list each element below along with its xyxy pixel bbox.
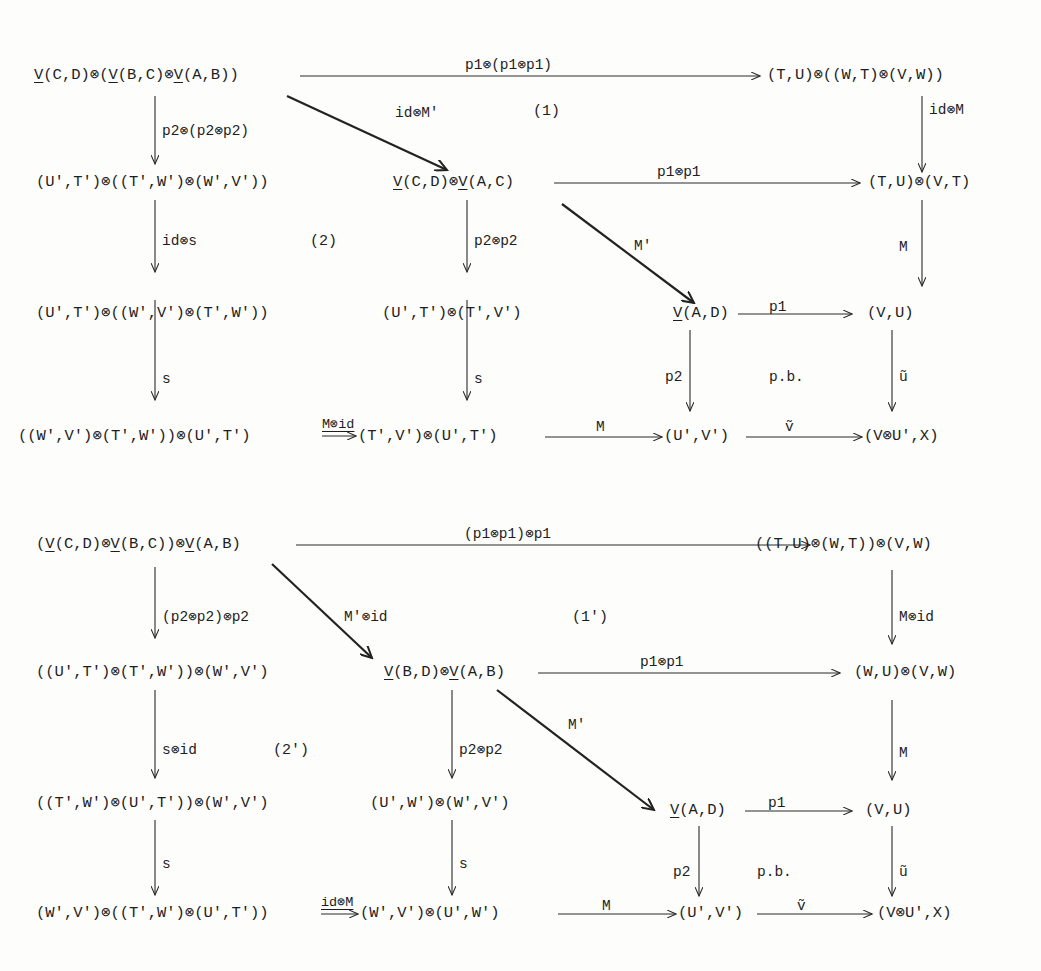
label-pb-h-2: p1 [768, 796, 785, 811]
region-label-1-prime: (1') [572, 610, 608, 625]
label-bot-h1: M⊗id [322, 418, 354, 432]
enriched-hom-v: V [393, 173, 402, 191]
node-bottom-r2c4: (W,U)⊗(V,W) [854, 665, 956, 681]
enriched-hom-v: V [185, 535, 194, 553]
label-pb-v: p2 [665, 370, 682, 385]
text: (A,D) [682, 304, 729, 322]
region-label-1: (1) [533, 104, 560, 119]
text: (A,C) [467, 173, 514, 191]
text: (B,D)⊗ [393, 663, 449, 681]
diagram-canvas: V(C,D)⊗(V(B,C)⊗V(A,B)) (T,U)⊗((W,T)⊗(V,W… [0, 0, 1041, 971]
label-top-h: p1⊗(p1⊗p1) [465, 58, 552, 73]
label-mid-v2: p2⊗p2 [474, 234, 518, 249]
arrow-diag2-2 [497, 690, 654, 810]
node-top-r3c2: (U',T')⊗(T',V') [382, 306, 522, 322]
text: (A,B) [458, 663, 505, 681]
enriched-hom-v: V [384, 663, 393, 681]
text: (C,D)⊗( [43, 66, 108, 84]
label-pb-h: p1 [769, 300, 786, 315]
node-bottom-r4c1: (W',V')⊗((T',W')⊗(U',T')) [36, 906, 269, 922]
pullback-mark: p.b. [769, 370, 804, 385]
label-u-tilde: ũ [899, 370, 908, 385]
node-bottom-r3c4: (V,U) [865, 803, 912, 819]
label-bot-h2: M [596, 420, 605, 435]
node-top-r3c3: V(A,D) [673, 306, 729, 322]
label-mid-v3: s [474, 372, 483, 387]
enriched-hom-v: V [45, 535, 54, 553]
label-right-v2: M [899, 240, 908, 255]
label-bot-h2-2: M [602, 899, 611, 914]
node-bottom-r4c3: (U',V') [678, 906, 743, 922]
node-top-r3c4: (V,U) [867, 306, 914, 322]
label-top-h-2: (p1⊗p1)⊗p1 [464, 527, 551, 542]
arrows-layer [0, 0, 1041, 971]
label-left-v2: id⊗s [162, 234, 197, 249]
label-bot-h3-2: ṽ [797, 899, 806, 914]
label-diag2: M' [634, 239, 651, 254]
text: (B,C))⊗ [120, 535, 185, 553]
node-bottom-r4c2: (W',V')⊗(U',W') [360, 906, 500, 922]
label-mid-h-2: p1⊗p1 [640, 655, 684, 670]
node-top-r1c4: (T,U)⊗((W,T)⊗(V,W)) [767, 68, 944, 84]
pullback-mark-2: p.b. [757, 865, 792, 880]
node-bottom-r1c1: (V(C,D)⊗V(B,C))⊗V(A,B) [36, 537, 241, 553]
enriched-hom-v: V [174, 66, 183, 84]
label-diag1: id⊗M' [395, 106, 439, 121]
enriched-hom-v: V [670, 801, 679, 819]
node-top-r4c2: (T',V')⊗(U',T') [358, 429, 498, 445]
node-top-r4c3: (U',V') [664, 429, 729, 445]
label-pb-v-2: p2 [673, 865, 690, 880]
label-left-v1: p2⊗(p2⊗p2) [162, 124, 249, 139]
text: (A,D) [679, 801, 726, 819]
node-bottom-r3c2: (U',W')⊗(W',V') [370, 796, 510, 812]
node-bottom-r2c2: V(B,D)⊗V(A,B) [384, 665, 505, 681]
enriched-hom-v: V [110, 535, 119, 553]
node-bottom-r4c4: (V⊗U',X) [877, 906, 951, 922]
node-top-r2c2: V(C,D)⊗V(A,C) [393, 175, 514, 191]
text: (B,C)⊗ [118, 66, 174, 84]
label-right-v1: id⊗M [929, 103, 964, 118]
label-right-v1-2: M⊗id [899, 610, 934, 625]
node-top-r3c1: (U',T')⊗((W',V')⊗(T',W')) [36, 306, 269, 322]
node-top-r4c1: ((W',V')⊗(T',W'))⊗(U',T') [18, 429, 251, 445]
label-mid-v3-2: s [459, 857, 468, 872]
label-bot-h3: ṽ [785, 420, 794, 435]
arrow-diag2 [562, 204, 694, 303]
region-label-2: (2) [310, 234, 337, 249]
region-label-2-prime: (2') [273, 743, 309, 758]
label-diag1-2: M'⊗id [344, 610, 388, 625]
node-top-r1c1: V(C,D)⊗(V(B,C)⊗V(A,B)) [34, 68, 239, 84]
node-top-r4c4: (V⊗U',X) [864, 429, 938, 445]
label-left-v3: s [162, 372, 171, 387]
enriched-hom-v: V [34, 66, 43, 84]
text: (C,D)⊗ [402, 173, 458, 191]
node-top-r2c4: (T,U)⊗(V,T) [868, 175, 970, 191]
label-left-v2-2: s⊗id [162, 743, 197, 758]
label-right-v2-2: M [899, 746, 908, 761]
node-top-r2c1: (U',T')⊗((T',W')⊗(W',V')) [36, 175, 269, 191]
enriched-hom-v: V [108, 66, 117, 84]
node-bottom-r2c1: ((U',T')⊗(T',W'))⊗(W',V') [36, 665, 269, 681]
enriched-hom-v: V [673, 304, 682, 322]
label-left-v1-2: (p2⊗p2)⊗p2 [162, 610, 249, 625]
label-mid-v2-2: p2⊗p2 [459, 743, 503, 758]
label-diag2-2: M' [568, 718, 585, 733]
label-u-tilde-2: ũ [899, 865, 908, 880]
node-bottom-r1c4: ((T,U)⊗(W,T))⊗(V,W) [755, 537, 932, 553]
text: ( [36, 535, 45, 553]
label-left-v3-2: s [162, 857, 171, 872]
label-mid-h: p1⊗p1 [657, 165, 701, 180]
node-bottom-r3c1: ((T',W')⊗(U',T'))⊗(W',V') [36, 796, 269, 812]
label-bot-h1-2: id⊗M [321, 896, 353, 910]
text: (A,B) [194, 535, 241, 553]
text: (A,B)) [183, 66, 239, 84]
node-bottom-r3c3: V(A,D) [670, 803, 726, 819]
text: (C,D)⊗ [55, 535, 111, 553]
